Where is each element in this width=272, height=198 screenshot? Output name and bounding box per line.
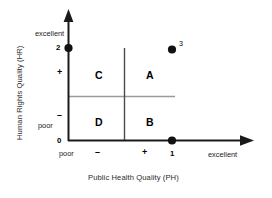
y-tick-label-2: 2 bbox=[56, 44, 60, 52]
data-point-0-2[interactable] bbox=[64, 44, 72, 52]
y-tick-label-excellent: excellent bbox=[35, 30, 64, 37]
y-axis-arrowhead bbox=[64, 9, 74, 22]
quadrant-label-d: D bbox=[95, 117, 103, 128]
x-axis-title: Public Health Quality (PH) bbox=[88, 174, 179, 182]
x-tick-label-1: 1 bbox=[170, 150, 174, 158]
y-tick-label-poor: poor bbox=[38, 122, 53, 129]
quadrant-label-a: A bbox=[146, 70, 154, 81]
y-tick-label-0: 0 bbox=[57, 137, 61, 145]
x-tick-label-poor: poor bbox=[59, 150, 74, 157]
data-point-1-0[interactable] bbox=[168, 136, 176, 144]
y-axis-title: Human Rights Quality (HR) bbox=[16, 46, 24, 141]
data-point-3-label: 3 bbox=[179, 40, 183, 47]
quadrant-label-c: C bbox=[95, 70, 103, 81]
x-axis-arrowhead bbox=[240, 135, 254, 146]
y-tick-label-minus: – bbox=[57, 111, 62, 120]
quadrant-label-b: B bbox=[146, 117, 154, 128]
data-point-3[interactable] bbox=[168, 45, 176, 53]
quadrant-scatter-figure: Human Rights Quality (HR) Public Health … bbox=[0, 0, 272, 198]
x-tick-label-plus: + bbox=[142, 148, 147, 157]
x-tick-label-minus: – bbox=[95, 148, 100, 157]
y-tick-label-plus: + bbox=[57, 68, 62, 77]
x-tick-label-excellent: excellent bbox=[208, 151, 237, 158]
